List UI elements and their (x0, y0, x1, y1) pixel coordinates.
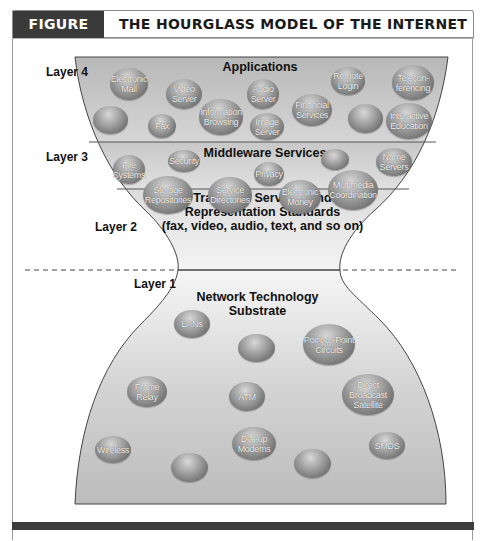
bubble-wireless: Wireless (95, 436, 131, 463)
bubble-empty-l1-1 (238, 334, 275, 362)
bubble-storage-repositories: Storage Repositories (143, 176, 193, 214)
bubble-teleconferencing: Telecon-ferencing (392, 65, 434, 100)
bubble-image-server: Image Server (250, 113, 284, 140)
bubble-empty-l3 (321, 149, 349, 170)
bubble-information-browsing: Information Browsing (199, 99, 243, 135)
bubble-audio-server: Audio Server (247, 79, 279, 109)
bubble-empty-l1-2 (171, 453, 208, 482)
bubble-atm: ATM (229, 382, 265, 411)
bubble-electronic-mail: Electronic Mail (110, 68, 148, 100)
bubble-privacy: Privacy (254, 162, 284, 186)
bubble-empty-l4-2 (348, 104, 383, 133)
layer-4-label: Layer 4 (46, 65, 88, 79)
bubble-direct-broadcast-satellite: Direct Broadcast Satellite (342, 374, 394, 415)
bubble-financial-services: Financial Services (292, 94, 332, 126)
transport-title-line-3: (fax, video, audio, text, and so on) (150, 219, 375, 233)
bubble-lans: LANs (174, 310, 210, 338)
bubble-file-systems: File Systems (113, 155, 145, 184)
layer-3-label: Layer 3 (46, 150, 88, 164)
bubble-interactive-education: Interactive Education (386, 103, 432, 139)
bubble-smds: SMDS (369, 432, 405, 459)
bubble-point-to-point-circuits: Point-to-Point Circuits (303, 324, 355, 365)
bubble-fax: Fax (148, 114, 176, 138)
layer-1-label: Layer 1 (134, 277, 176, 291)
footer-bar (12, 522, 474, 530)
bubble-electronic-money: Electronic Money (279, 180, 321, 214)
bubble-empty-l4-1 (93, 106, 128, 134)
bubble-multimedia-coordination: Multimedia Coordination (328, 170, 378, 210)
bubble-frame-relay: Frame Relay (127, 376, 167, 407)
bubble-name-servers: Name Servers (376, 148, 412, 176)
bubble-dial-up-modems: Dial-up Modems (232, 427, 276, 460)
bubble-video-server: Video Server (166, 79, 202, 109)
bubble-remote-login: Remote Login (331, 67, 365, 95)
bubble-security: Security (168, 150, 200, 172)
bubble-empty-l1-3 (294, 449, 331, 478)
applications-title: Applications (210, 60, 310, 74)
bubble-service-directories: Service Directories (208, 177, 252, 213)
layer-2-label: Layer 2 (95, 220, 137, 234)
